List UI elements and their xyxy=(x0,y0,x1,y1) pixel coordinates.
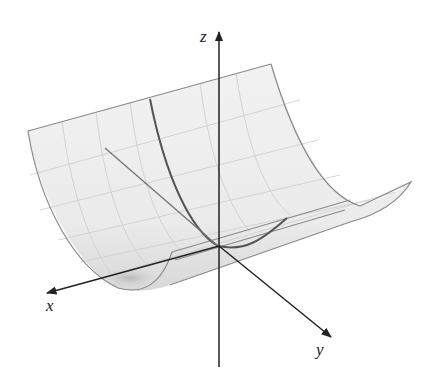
parabolic-cylinder-figure: z x y xyxy=(0,0,432,391)
y-axis xyxy=(219,246,331,337)
x-axis-label: x xyxy=(45,296,54,315)
y-axis-label: y xyxy=(314,340,324,359)
z-axis-label: z xyxy=(199,27,207,46)
